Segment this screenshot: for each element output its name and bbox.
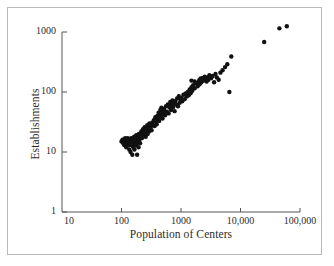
axis-ticks (62, 32, 300, 212)
scatter-point (162, 110, 166, 114)
figure-container: Population of Centers Establishments 101… (0, 0, 334, 266)
x-tick-label: 100 (92, 215, 152, 226)
scatter-point (152, 119, 156, 123)
scatter-point (143, 127, 147, 131)
plot-area: Population of Centers Establishments 101… (0, 0, 334, 266)
scatter-point (216, 78, 220, 82)
data-points (119, 24, 289, 157)
scatter-point (262, 40, 266, 44)
scatter-point (130, 153, 134, 157)
scatter-point (133, 138, 137, 142)
scatter-point (277, 26, 281, 30)
y-axis-title: Establishments (29, 59, 41, 189)
scatter-point (229, 54, 233, 58)
scatter-point (199, 76, 203, 80)
scatter-point (172, 109, 176, 113)
scatter-plot-svg (0, 0, 334, 266)
scatter-point (136, 145, 140, 149)
scatter-point (126, 139, 130, 143)
scatter-point (167, 103, 171, 107)
scatter-point (212, 80, 216, 84)
scatter-point (138, 141, 142, 145)
scatter-point (225, 62, 229, 66)
x-tick-label: 1000 (151, 215, 211, 226)
x-axis-title: Population of Centers (62, 228, 300, 240)
scatter-point (124, 143, 128, 147)
scatter-point (135, 153, 139, 157)
y-tick-label: 100 (0, 85, 56, 96)
axes-lines (62, 32, 300, 212)
y-tick-label: 1000 (0, 25, 56, 36)
x-tick-label: 100,000 (270, 215, 330, 226)
scatter-point (149, 128, 153, 132)
y-tick-label: 10 (0, 145, 56, 156)
scatter-point (132, 147, 136, 151)
scatter-point (138, 133, 142, 137)
x-tick-label: 10,000 (211, 215, 271, 226)
scatter-point (193, 79, 197, 83)
scatter-point (285, 24, 289, 28)
scatter-point (227, 90, 231, 94)
scatter-point (159, 114, 163, 118)
y-tick-label: 1 (0, 205, 56, 216)
scatter-point (148, 123, 152, 127)
